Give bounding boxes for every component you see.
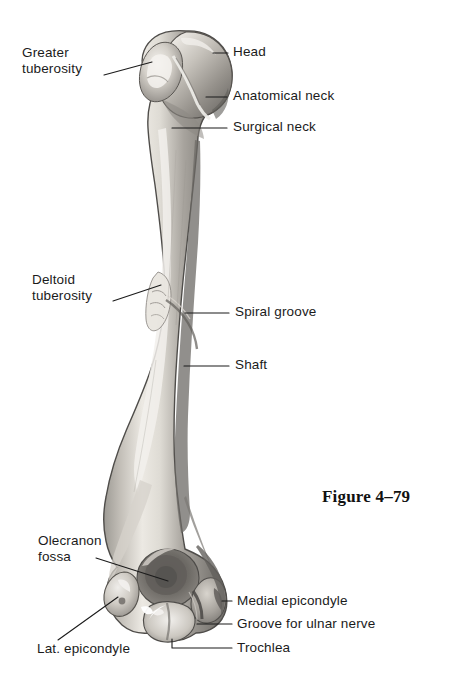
label-groove-for-ulnar-nerve: Groove for ulnar nerve: [237, 616, 375, 632]
label-lat-epicondyle: Lat. epicondyle: [37, 641, 130, 657]
label-olecranon-fossa-line1: Olecranon: [38, 533, 102, 548]
label-medial-epicondyle: Medial epicondyle: [237, 593, 348, 609]
label-surgical-neck: Surgical neck: [233, 119, 316, 135]
label-greater-tuberosity-line2: tuberosity: [22, 61, 82, 76]
label-trochlea: Trochlea: [237, 640, 290, 656]
label-shaft: Shaft: [235, 357, 267, 373]
bone-body: [104, 31, 232, 642]
label-deltoid-tuberosity: Deltoidtuberosity: [32, 272, 92, 304]
label-deltoid-tuberosity-line1: Deltoid: [32, 272, 75, 287]
label-olecranon-fossa: Olecranonfossa: [38, 533, 102, 565]
olecranon-fossa-deep: [155, 566, 177, 588]
label-olecranon-fossa-line2: fossa: [38, 549, 71, 564]
figure-caption: Figure 4–79: [322, 487, 410, 507]
leader-lat-epicondyle: [58, 597, 118, 640]
lateral-epicondyle-pit: [119, 598, 126, 605]
label-deltoid-tuberosity-line2: tuberosity: [32, 288, 92, 303]
label-greater-tuberosity-line1: Greater: [22, 45, 69, 60]
label-spiral-groove: Spiral groove: [235, 304, 317, 320]
label-greater-tuberosity: Greatertuberosity: [22, 45, 82, 77]
label-anatomical-neck: Anatomical neck: [233, 88, 334, 104]
figure-container: Greatertuberosity Head Anatomical neck S…: [0, 0, 465, 688]
label-head: Head: [233, 44, 266, 60]
